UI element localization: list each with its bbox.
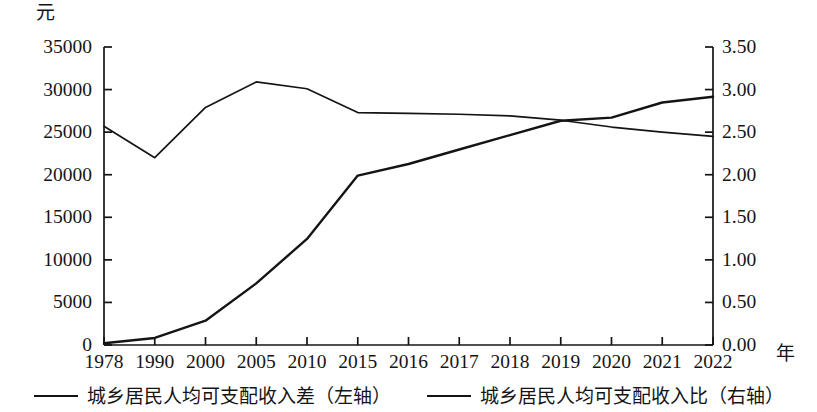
series-line-1 [104,97,713,343]
series-line-2 [104,82,713,158]
right-axis-tick-label: 3.50 [722,37,792,57]
legend-line-swatch-icon [34,395,78,397]
legend-entry: 城乡居民人均可支配收入差（左轴） [34,387,391,406]
left-axis-tick-label: 15000 [0,207,92,227]
left-axis-tick-label: 10000 [0,250,92,270]
legend-label: 城乡居民人均可支配收入差（左轴） [87,387,391,406]
right-axis-tick-label: 2.50 [722,122,792,142]
left-axis-tick-label: 30000 [0,80,92,100]
chart-legend: 城乡居民人均可支配收入差（左轴）城乡居民人均可支配收入比（右轴） [0,380,817,412]
legend-label: 城乡居民人均可支配收入比（右轴） [480,387,784,406]
left-axis-tick-label: 25000 [0,122,92,142]
right-axis-tick-label: 0.50 [722,292,792,312]
left-axis-tick-label: 5000 [0,292,92,312]
legend-line-swatch-icon [427,395,471,397]
right-axis-tick-label: 2.00 [722,165,792,185]
left-axis-tick-label: 35000 [0,37,92,57]
x-axis-tick-label: 2022 [683,352,743,372]
left-axis-tick-label: 20000 [0,165,92,185]
chart-figure: 元 年 05000100001500020000250003000035000 … [0,0,817,412]
right-axis-tick-label: 1.00 [722,250,792,270]
right-axis-tick-label: 3.00 [722,80,792,100]
legend-entry: 城乡居民人均可支配收入比（右轴） [427,387,784,406]
right-axis-tick-label: 1.50 [722,207,792,227]
